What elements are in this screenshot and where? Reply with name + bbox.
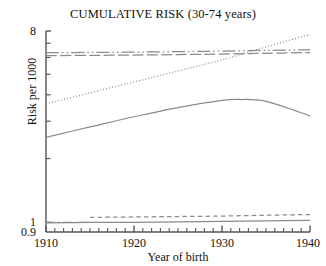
data-series-group xyxy=(46,34,310,222)
plot-area xyxy=(0,0,326,266)
chart-figure: CUMULATIVE RISK (30-74 years) Risk per 1… xyxy=(0,0,326,266)
axes xyxy=(46,31,310,232)
series-observed-solid-curve xyxy=(46,99,310,137)
series-rising-dotted-trend xyxy=(46,34,310,104)
series-upper-longdash-band xyxy=(46,53,310,56)
series-upper-dashdotdot-band xyxy=(46,50,310,53)
series-lower-dash-band xyxy=(90,215,310,218)
